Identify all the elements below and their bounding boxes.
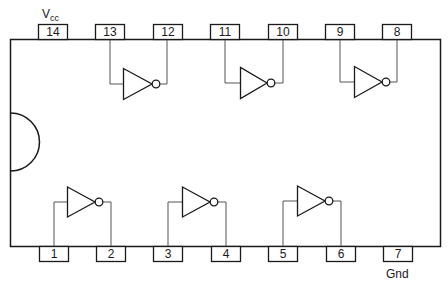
pin-13: 13 bbox=[96, 25, 125, 40]
pin-8: 8 bbox=[383, 25, 412, 40]
pin-9: 9 bbox=[326, 25, 355, 40]
inversion-bubble-icon bbox=[267, 79, 275, 87]
pin-11: 11 bbox=[211, 25, 240, 40]
pin-6: 6 bbox=[327, 247, 356, 262]
pin-4: 4 bbox=[212, 247, 241, 262]
bottom-pins: 1 2 3 4 5 6 7 bbox=[40, 247, 413, 262]
inverter-gate-9-8 bbox=[340, 40, 397, 98]
ic-pinout-diagram: Vcc 14 13 12 11 10 9 8 bbox=[0, 0, 448, 285]
inversion-bubble-icon bbox=[152, 80, 160, 88]
svg-text:1: 1 bbox=[51, 247, 58, 261]
pin-1: 1 bbox=[40, 247, 69, 262]
inversion-bubble-icon bbox=[382, 78, 390, 86]
top-pins: 14 13 12 11 10 9 8 bbox=[39, 25, 412, 40]
svg-text:12: 12 bbox=[161, 25, 175, 39]
svg-text:4: 4 bbox=[223, 247, 230, 261]
svg-text:6: 6 bbox=[338, 247, 345, 261]
svg-text:11: 11 bbox=[219, 25, 232, 39]
pin-10: 10 bbox=[269, 25, 298, 40]
inverter-gate-1-2 bbox=[54, 187, 111, 246]
pin-2: 2 bbox=[97, 247, 126, 262]
svg-text:7: 7 bbox=[395, 247, 402, 261]
inverter-gate-13-12 bbox=[110, 40, 167, 100]
svg-text:5: 5 bbox=[280, 247, 287, 261]
svg-text:2: 2 bbox=[108, 247, 115, 261]
inverter-gate-11-10 bbox=[225, 40, 283, 99]
inverter-triangle-icon bbox=[298, 186, 326, 216]
inverter-triangle-icon bbox=[241, 68, 268, 99]
pin-14: 14 bbox=[39, 25, 68, 40]
pin-3: 3 bbox=[154, 247, 183, 262]
inverter-triangle-icon bbox=[124, 69, 153, 100]
svg-text:3: 3 bbox=[165, 247, 172, 261]
pin-12: 12 bbox=[154, 25, 183, 40]
inverter-triangle-icon bbox=[68, 187, 96, 217]
inversion-bubble-icon bbox=[95, 198, 103, 206]
inverter-gate-5-6 bbox=[283, 186, 341, 246]
svg-text:13: 13 bbox=[103, 25, 117, 39]
inverter-triangle-icon bbox=[355, 67, 383, 98]
inverter-triangle-icon bbox=[183, 187, 211, 217]
svg-text:10: 10 bbox=[276, 25, 290, 39]
pin-5: 5 bbox=[269, 247, 298, 262]
pin-7: 7 bbox=[384, 247, 413, 262]
svg-text:14: 14 bbox=[46, 25, 60, 39]
inversion-bubble-icon bbox=[210, 198, 218, 206]
svg-text:9: 9 bbox=[337, 25, 344, 39]
inverter-gate-3-4 bbox=[168, 187, 226, 246]
orientation-notch bbox=[11, 113, 40, 171]
gnd-label: Gnd bbox=[386, 267, 409, 281]
svg-text:8: 8 bbox=[394, 25, 401, 39]
vcc-label: Vcc bbox=[42, 7, 60, 23]
inversion-bubble-icon bbox=[325, 197, 333, 205]
